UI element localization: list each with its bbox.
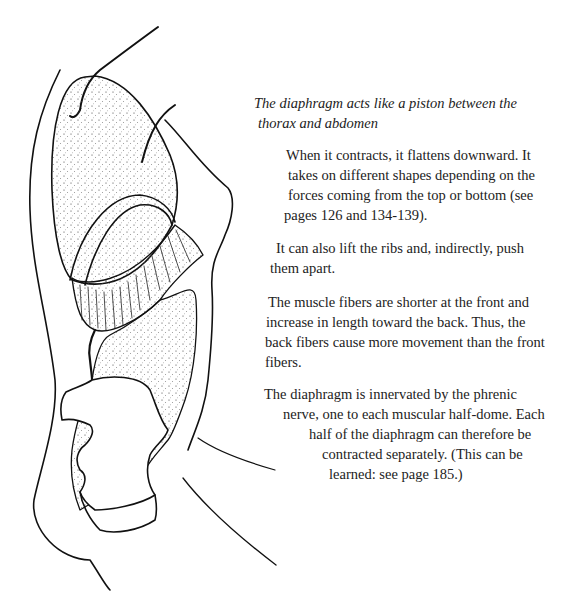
body-text-line: It can also lift the ribs and, indirectl… xyxy=(276,239,524,257)
caption-line: The diaphragm acts like a piston between… xyxy=(254,94,517,112)
body-text-line: back fibers cause more movement than the… xyxy=(265,333,545,351)
body-text-line: pages 126 and 134-139). xyxy=(284,206,427,224)
body-text-line: learned: see page 185.) xyxy=(329,465,463,483)
body-text-line: half of the diaphragm can therefore be xyxy=(309,425,531,443)
body-text-line: forces coming from the top or bottom (se… xyxy=(288,186,533,204)
diaphragm-illustration-icon xyxy=(0,0,290,599)
caption-line: thorax and abdomen xyxy=(258,114,378,132)
body-text-line: When it contracts, it flattens downward.… xyxy=(286,146,531,164)
body-text-line: them apart. xyxy=(270,259,335,277)
body-text-line: The diaphragm is innervated by the phren… xyxy=(264,385,517,403)
body-text-line: takes on different shapes depending on t… xyxy=(288,166,535,184)
body-text-line: contracted separately. (This can be xyxy=(322,445,523,463)
body-text-line: fibers. xyxy=(265,353,302,371)
body-text-line: The muscle fibers are shorter at the fro… xyxy=(268,293,529,311)
body-text-line: increase in length toward the back. Thus… xyxy=(266,313,525,331)
body-text-line: nerve, one to each muscular half-dome. E… xyxy=(283,405,545,423)
